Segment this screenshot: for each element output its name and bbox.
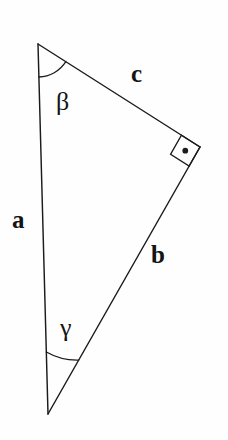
angle-arc-beta [39,62,66,77]
angle-label-beta: β [56,89,69,115]
right-angle-dot-icon [182,148,188,154]
triangle-side-a [38,44,48,414]
side-label-c: c [131,61,142,86]
geometry-figure: a b c β γ [0,0,228,440]
triangle-svg [0,0,228,440]
angle-label-gamma: γ [60,315,72,341]
side-label-a: a [12,207,25,232]
right-angle-marker [171,135,200,166]
angle-arc-gamma [46,352,78,360]
side-label-b: b [151,242,165,267]
triangle-side-b [48,147,200,414]
